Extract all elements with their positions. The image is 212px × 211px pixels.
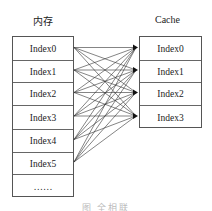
figure-caption: 图 全相联 <box>0 201 212 211</box>
arrowhead-icon <box>133 45 138 51</box>
mapping-lines <box>0 0 212 211</box>
arrowhead-icon <box>133 67 138 73</box>
arrowhead-icon <box>133 90 138 96</box>
arrowhead-icon <box>133 113 138 119</box>
